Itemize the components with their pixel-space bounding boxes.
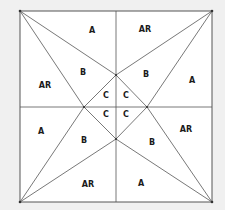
quilt-block-diagram: A AR AR B B A C C C C A B AR B AR A bbox=[0, 0, 225, 210]
region-label: AR bbox=[139, 25, 151, 34]
region-label: B bbox=[80, 68, 86, 77]
region-label: C bbox=[103, 91, 109, 100]
region-label: B bbox=[143, 70, 149, 79]
region-label: A bbox=[38, 127, 45, 136]
region-label: A bbox=[89, 26, 96, 35]
region-label: C bbox=[123, 110, 129, 119]
region-label: AR bbox=[39, 81, 51, 90]
region-label: AR bbox=[82, 180, 94, 189]
region-label: AR bbox=[180, 125, 192, 134]
region-label: C bbox=[103, 110, 109, 119]
region-label: B bbox=[81, 136, 87, 145]
region-label: A bbox=[189, 76, 196, 85]
region-label: B bbox=[149, 138, 155, 147]
region-label: C bbox=[123, 91, 129, 100]
region-label: A bbox=[138, 179, 145, 188]
